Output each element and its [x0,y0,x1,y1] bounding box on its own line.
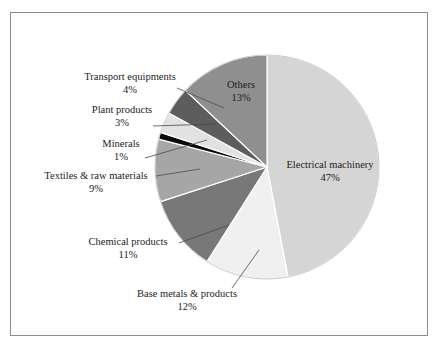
slice-label-minerals: Minerals [102,138,139,149]
slice-label-plant-products: Plant products [92,104,152,115]
slice-value-textiles-raw-materials: 9% [89,183,103,194]
pie-chart: Electrical machinery47%Base metals & pro… [0,0,440,348]
slice-value-plant-products: 3% [115,117,129,128]
slice-value-chemical-products: 11% [119,249,138,260]
figure-container: Electrical machinery47%Base metals & pro… [0,0,440,348]
slice-label-chemical-products: Chemical products [88,236,167,247]
slice-value-base-metals-products: 12% [177,301,197,312]
slice-label-textiles-raw-materials: Textiles & raw materials [44,170,147,181]
slice-value-others: 13% [231,92,251,103]
slice-label-others: Others [227,79,255,90]
slice-value-minerals: 1% [114,151,128,162]
slice-value-transport-equipments: 4% [123,84,137,95]
slice-label-base-metals-products: Base metals & products [137,288,237,299]
slice-value-electrical-machinery: 47% [320,172,340,183]
slice-label-electrical-machinery: Electrical machinery [286,159,374,170]
slice-label-transport-equipments: Transport equipments [84,71,176,82]
